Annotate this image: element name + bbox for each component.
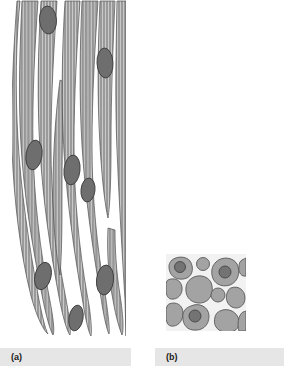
- cell-nucleus: [175, 262, 186, 273]
- cross-section-cell-group: [166, 257, 246, 331]
- cell-nucleus: [189, 310, 201, 322]
- panel-a-longitudinal-section-image: [12, 0, 126, 336]
- figure-root: (a) (b): [0, 0, 284, 376]
- cross-section-cell: [226, 287, 245, 308]
- caption-bar-b: (b): [155, 348, 284, 366]
- cross-section-cell: [211, 288, 225, 302]
- cross-section-cell: [166, 279, 182, 299]
- cross-section-cell: [197, 258, 210, 271]
- cross-section-svg: [166, 254, 246, 331]
- panel-b-caption-label: (b): [155, 353, 178, 362]
- panel-a-caption-label: (a): [0, 353, 22, 362]
- cell-nucleus: [219, 266, 231, 278]
- cross-section-cell: [186, 276, 212, 303]
- cross-section-cell: [214, 310, 239, 331]
- panel-b-cross-section-image: [166, 254, 246, 331]
- caption-bar-a: (a): [0, 348, 131, 366]
- longitudinal-section-svg: [12, 0, 126, 336]
